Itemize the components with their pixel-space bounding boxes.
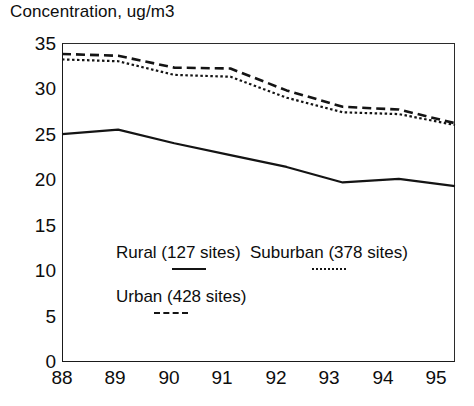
legend-entry-urban: Urban (428 sites) <box>116 288 246 318</box>
legend-swatch-rural-solid-line <box>172 268 206 274</box>
legend-entry-suburban: Suburban (378 sites) <box>250 244 408 274</box>
x-tick-label: 92 <box>254 368 298 387</box>
x-tick-label: 91 <box>200 368 244 387</box>
x-tick-label: 88 <box>40 368 84 387</box>
x-tick-label: 95 <box>414 368 458 387</box>
legend-entry-rural: Rural (127 sites) <box>116 244 241 274</box>
legend-label-urban: Urban (428 sites) <box>116 288 246 306</box>
x-axis: 88 89 90 91 92 93 94 95 <box>0 0 474 406</box>
x-tick-label: 93 <box>307 368 351 387</box>
x-tick-label: 94 <box>361 368 405 387</box>
legend-swatch-suburban-dotted-line <box>312 268 346 274</box>
chart-figure: Concentration, ug/m3 35 30 25 20 15 10 5… <box>0 0 474 406</box>
legend-label-rural: Rural (127 sites) <box>116 244 241 262</box>
legend-swatch-urban-dashed-line <box>154 312 188 318</box>
x-tick-label: 90 <box>147 368 191 387</box>
x-tick-label: 89 <box>93 368 137 387</box>
legend-label-suburban: Suburban (378 sites) <box>250 244 408 262</box>
chart-legend: Rural (127 sites) Suburban (378 sites) U… <box>62 240 455 340</box>
